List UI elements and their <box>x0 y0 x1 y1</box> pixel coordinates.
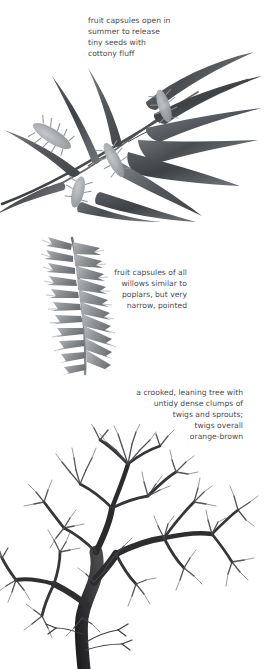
annotation-fruit-capsules: fruit capsules open in summer to release… <box>88 16 184 60</box>
annotation-narrow-capsules: fruit capsules of all willows similar to… <box>95 268 187 312</box>
bare-willow-tree-illustration <box>0 424 260 669</box>
willow-branch-illustration <box>0 44 264 222</box>
